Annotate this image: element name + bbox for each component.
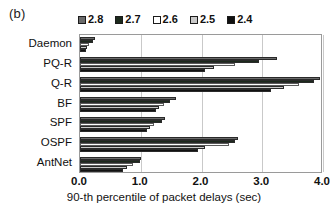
legend-swatch-icon bbox=[227, 16, 235, 24]
category-label-bf: BF bbox=[57, 98, 72, 110]
bar bbox=[80, 69, 205, 72]
category-label-antnet: AntNet bbox=[37, 157, 72, 169]
legend-label: 2.4 bbox=[237, 14, 252, 25]
legend-item-2.7: 2.7 bbox=[115, 14, 140, 25]
x-tick-label: 3.0 bbox=[253, 176, 269, 188]
bar-group-q-r bbox=[80, 75, 321, 95]
category-label-pq-r: PQ-R bbox=[43, 58, 72, 70]
plot-area bbox=[79, 34, 322, 173]
bar bbox=[80, 89, 271, 92]
category-label-daemon: Daemon bbox=[29, 38, 72, 50]
x-tick-label: 1.0 bbox=[132, 176, 148, 188]
legend-label: 2.6 bbox=[163, 14, 178, 25]
legend-swatch-icon bbox=[115, 16, 123, 24]
bar-group-antnet bbox=[80, 154, 321, 174]
bar bbox=[80, 129, 147, 132]
bar-group-pq-r bbox=[80, 55, 321, 75]
legend-item-2.4: 2.4 bbox=[227, 14, 252, 25]
legend-item-2.8: 2.8 bbox=[78, 14, 103, 25]
category-label-spf: SPF bbox=[50, 117, 72, 129]
x-tick-label: 4.0 bbox=[314, 176, 330, 188]
legend-swatch-icon bbox=[190, 16, 198, 24]
gridline bbox=[323, 35, 324, 172]
legend-label: 2.5 bbox=[200, 14, 215, 25]
panel-letter: (b) bbox=[9, 6, 26, 21]
bar-group-spf bbox=[80, 114, 321, 134]
category-label-q-r: Q-R bbox=[51, 78, 72, 90]
bar-group-ospf bbox=[80, 134, 321, 154]
legend-swatch-icon bbox=[153, 16, 161, 24]
x-axis-title: 90-th percentile of packet delays (sec) bbox=[0, 191, 328, 203]
bar-group-bf bbox=[80, 95, 321, 115]
legend-item-2.5: 2.5 bbox=[190, 14, 215, 25]
x-tick-label: 2.0 bbox=[193, 176, 209, 188]
legend-label: 2.8 bbox=[88, 14, 103, 25]
bar bbox=[80, 149, 198, 152]
chart-legend: 2.82.72.62.52.4 bbox=[78, 12, 322, 27]
x-tick-label: 0.0 bbox=[71, 176, 87, 188]
legend-item-2.6: 2.6 bbox=[153, 14, 178, 25]
bar-group-daemon bbox=[80, 35, 321, 55]
category-label-ospf: OSPF bbox=[41, 137, 72, 149]
bar bbox=[80, 109, 156, 112]
legend-label: 2.7 bbox=[125, 14, 140, 25]
x-axis-ticks: 0.01.02.03.04.0 bbox=[79, 176, 322, 190]
category-axis-labels: DaemonPQ-RQ-RBFSPFOSPFAntNet bbox=[0, 34, 76, 173]
bars-layer bbox=[80, 35, 321, 172]
legend-swatch-icon bbox=[78, 16, 86, 24]
bar bbox=[80, 169, 123, 172]
bar bbox=[80, 49, 86, 52]
